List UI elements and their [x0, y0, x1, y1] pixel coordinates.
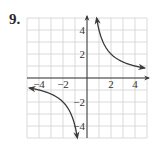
- x-tick-label: 4: [132, 78, 138, 90]
- y-tick-label: 2: [80, 48, 86, 60]
- x-tick-label: −4: [33, 78, 45, 90]
- y-tick-label: −2: [73, 96, 85, 108]
- x-tick-label: −2: [57, 78, 69, 90]
- hyperbola-plot: −4−22442−2−4: [0, 0, 154, 142]
- curve-branch-right: [97, 18, 145, 68]
- y-tick-label: 4: [80, 24, 86, 36]
- curve-branch-left: [29, 88, 77, 138]
- x-tick-label: 2: [108, 78, 114, 90]
